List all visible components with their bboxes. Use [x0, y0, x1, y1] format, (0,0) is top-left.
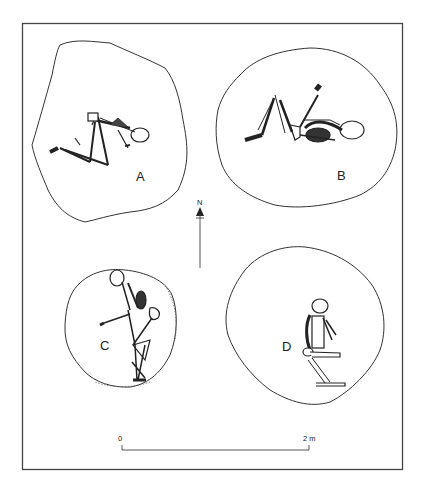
- pit-d-outline: [226, 247, 384, 405]
- pit-c-outline: [65, 270, 176, 388]
- burial-label-a: A: [136, 169, 145, 184]
- pit-a-outline: [32, 41, 187, 222]
- burial-d: D: [226, 247, 384, 405]
- skeleton-c: [100, 270, 159, 380]
- north-label: N: [197, 198, 202, 207]
- scale-bar: 0 2 m: [118, 434, 316, 450]
- burial-label-c: C: [100, 338, 109, 353]
- burial-a: A: [32, 41, 187, 222]
- burial-label-b: B: [337, 168, 346, 183]
- burial-b: B: [216, 48, 397, 207]
- scale-end-label: 2 m: [303, 434, 316, 443]
- burial-label-d: D: [282, 339, 291, 354]
- north-arrow: N: [196, 198, 204, 268]
- scale-start-label: 0: [118, 434, 122, 443]
- burial-c: C: [65, 270, 176, 388]
- skeleton-b: [245, 85, 364, 142]
- figure-frame: [23, 24, 403, 470]
- skeleton-d: [303, 299, 345, 386]
- burial-plan-diagram: A B N: [0, 0, 423, 491]
- skeleton-a: [50, 113, 149, 165]
